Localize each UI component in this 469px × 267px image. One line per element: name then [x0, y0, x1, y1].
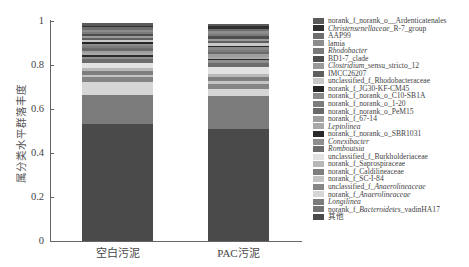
legend-swatch [313, 48, 324, 54]
legend-swatch [313, 206, 324, 212]
legend-swatch [313, 116, 324, 122]
y-tick [50, 21, 54, 22]
bar-segment [208, 67, 269, 74]
legend-swatch [313, 146, 324, 152]
legend: norank_f_norank_o__ArdenticatenalesChris… [313, 17, 447, 221]
legend-swatch [313, 131, 324, 137]
legend-swatch [313, 56, 324, 62]
legend-swatch [313, 101, 324, 107]
legend-swatch [313, 169, 324, 175]
x-tick-label: 空白污泥 [73, 244, 163, 260]
legend-item: 其他 [313, 213, 447, 221]
legend-swatch [313, 214, 324, 220]
legend-swatch [313, 176, 324, 182]
legend-swatch [313, 86, 324, 92]
legend-swatch [313, 18, 324, 24]
legend-label: 其他 [328, 213, 344, 221]
bar-segment [208, 96, 269, 129]
y-axis [50, 20, 51, 241]
y-tick [50, 197, 54, 198]
legend-swatch [313, 33, 324, 39]
bar-segment [82, 124, 153, 241]
legend-swatch [313, 40, 324, 46]
y-tick [50, 241, 54, 242]
y-tick-label: 0.8 [4, 59, 44, 71]
legend-swatch [313, 154, 324, 160]
y-axis-label: 属分类水平群落丰度 [13, 74, 28, 194]
y-tick [50, 109, 54, 110]
bar-segment [82, 95, 153, 125]
y-tick-label: 0.4 [4, 147, 44, 159]
y-tick-label: 1 [4, 15, 44, 27]
legend-swatch [313, 123, 324, 129]
legend-swatch [313, 93, 324, 99]
legend-swatch [313, 63, 324, 69]
legend-swatch [313, 161, 324, 167]
y-tick-label: 0.6 [4, 103, 44, 115]
legend-swatch [313, 191, 324, 197]
legend-swatch [313, 184, 324, 190]
legend-label: norank_f_Bacteroidetes_vadinHA17 [328, 206, 440, 214]
y-tick-label: 0 [4, 235, 44, 247]
y-tick [50, 153, 54, 154]
bar-segment [208, 89, 269, 96]
legend-swatch [313, 108, 324, 114]
stacked-bar [82, 21, 153, 241]
bar-segment [82, 82, 153, 94]
legend-swatch [313, 78, 324, 84]
y-tick [50, 65, 54, 66]
x-tick-label: PAC污泥 [194, 244, 284, 260]
legend-swatch [313, 199, 324, 205]
bar-segment [208, 129, 269, 241]
stacked-bar [208, 21, 269, 241]
y-tick-label: 0.2 [4, 191, 44, 203]
legend-swatch [313, 71, 324, 77]
legend-swatch [313, 25, 324, 31]
x-axis [50, 241, 302, 242]
legend-swatch [313, 139, 324, 145]
